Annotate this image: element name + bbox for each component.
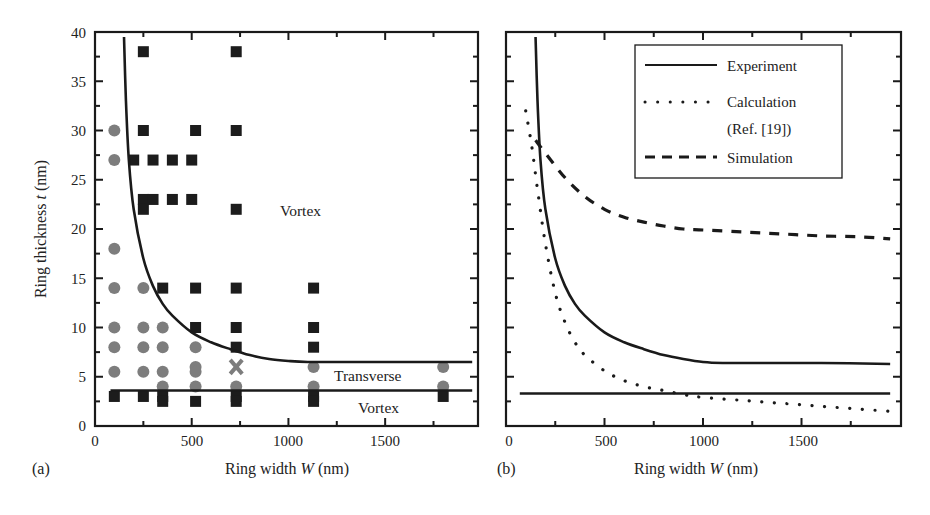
circle-marker xyxy=(137,341,149,353)
square-marker xyxy=(138,204,149,215)
square-marker xyxy=(157,283,168,294)
a-xtick-1000: 1000 xyxy=(273,433,303,449)
square-marker xyxy=(167,194,178,205)
circle-marker xyxy=(108,282,120,294)
square-marker xyxy=(231,46,242,57)
a-region-vortex-lower: Vortex xyxy=(358,399,399,416)
square-marker xyxy=(231,125,242,136)
square-marker xyxy=(308,342,319,353)
b-panel-label: (b) xyxy=(497,460,516,478)
a-y-axis-title: Ring thickness t (nm) xyxy=(32,160,50,298)
circle-marker xyxy=(108,243,120,255)
a-ytick-20: 20 xyxy=(71,221,86,237)
legend-label-calculation-ref: (Ref. [19]) xyxy=(727,121,791,138)
legend-label-experiment: Experiment xyxy=(727,58,798,74)
square-marker xyxy=(186,155,197,166)
square-marker xyxy=(190,396,201,407)
a-ytick-40: 40 xyxy=(71,25,86,41)
square-marker xyxy=(138,125,149,136)
a-region-transverse: Transverse xyxy=(334,367,402,384)
square-marker xyxy=(438,391,449,402)
circle-marker xyxy=(157,341,169,353)
square-marker xyxy=(138,391,149,402)
panel-b: Experiment Calculation (Ref. [19]) Simul… xyxy=(497,32,901,478)
square-marker xyxy=(190,125,201,136)
circle-marker xyxy=(108,154,120,166)
square-marker xyxy=(157,396,168,407)
panel-a-ticks xyxy=(95,32,478,426)
circle-marker xyxy=(157,366,169,378)
circle-marker xyxy=(190,341,202,353)
a-ytick-15: 15 xyxy=(71,271,86,287)
circle-marker xyxy=(108,322,120,334)
square-marker xyxy=(148,194,159,205)
b-xtick-1500: 1500 xyxy=(788,433,818,449)
a-ytick-0: 0 xyxy=(79,418,87,434)
a-ytick-25: 25 xyxy=(71,172,86,188)
square-marker xyxy=(190,283,201,294)
circle-marker xyxy=(108,341,120,353)
square-marker xyxy=(308,283,319,294)
square-marker xyxy=(138,194,149,205)
circle-marker xyxy=(137,282,149,294)
circle-marker xyxy=(108,125,120,137)
square-marker xyxy=(231,283,242,294)
a-xtick-500: 500 xyxy=(181,433,204,449)
circle-marker xyxy=(190,366,202,378)
panel-a-data-markers xyxy=(108,46,449,407)
square-marker xyxy=(231,396,242,407)
square-marker xyxy=(138,46,149,57)
circle-marker xyxy=(108,366,120,378)
square-marker xyxy=(148,155,159,166)
circle-marker xyxy=(157,322,169,334)
legend: Experiment Calculation (Ref. [19]) Simul… xyxy=(635,45,842,178)
b-xtick-1000: 1000 xyxy=(689,433,719,449)
a-ytick-35: 35 xyxy=(71,74,86,90)
square-marker xyxy=(109,391,120,402)
square-marker xyxy=(308,396,319,407)
square-marker xyxy=(231,204,242,215)
square-marker xyxy=(308,322,319,333)
a-x-axis-title: Ring width W (nm) xyxy=(225,460,349,478)
a-region-vortex-upper: Vortex xyxy=(280,202,321,219)
square-marker xyxy=(231,322,242,333)
a-ytick-5: 5 xyxy=(79,369,87,385)
a-xtick-1500: 1500 xyxy=(370,433,400,449)
a-ytick-30: 30 xyxy=(71,123,86,139)
a-ytick-10: 10 xyxy=(71,320,86,336)
circle-marker xyxy=(137,366,149,378)
square-marker xyxy=(167,155,178,166)
a-xtick-0: 0 xyxy=(91,433,99,449)
circle-marker xyxy=(137,322,149,334)
b-x-axis-title: Ring width W (nm) xyxy=(634,460,758,478)
panel-a-plot-frame xyxy=(95,32,478,426)
b-xtick-500: 500 xyxy=(595,433,618,449)
a-panel-label: (a) xyxy=(32,460,50,478)
figure: 0 500 1000 1500 0 5 10 15 20 25 30 35 40… xyxy=(0,0,930,515)
legend-label-calculation: Calculation xyxy=(727,94,797,110)
square-marker xyxy=(186,194,197,205)
panel-a: 0 500 1000 1500 0 5 10 15 20 25 30 35 40… xyxy=(32,25,478,478)
legend-label-simulation: Simulation xyxy=(727,150,793,166)
b-xtick-0: 0 xyxy=(505,433,513,449)
cross-marker xyxy=(230,360,242,374)
